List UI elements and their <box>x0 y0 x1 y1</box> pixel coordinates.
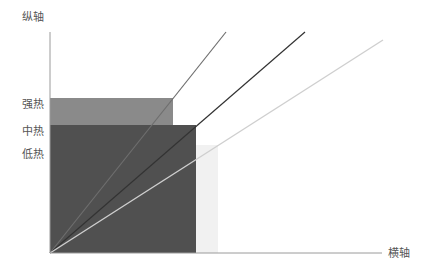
y-axis-label: 纵轴 <box>22 12 44 24</box>
level-label-strong-heat: 强热 <box>22 99 44 111</box>
diagram-canvas <box>0 0 435 278</box>
heat-level-regions <box>50 98 218 253</box>
level-label-medium-heat: 中热 <box>22 126 44 138</box>
x-axis-label: 横轴 <box>388 248 410 260</box>
level-label-low-heat: 低热 <box>22 149 44 161</box>
